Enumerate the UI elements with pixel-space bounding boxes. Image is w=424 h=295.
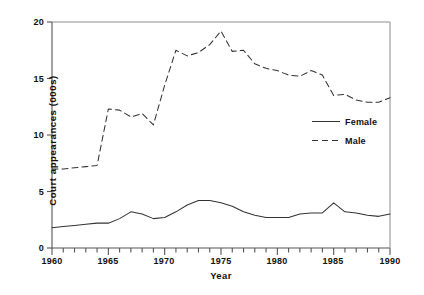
x-tick-label-1975: 1975 [201,256,241,266]
y-tick-label-15: 15 [20,74,44,84]
y-tick-label-0: 0 [20,243,44,253]
plot-area [0,0,424,295]
legend-label-male: Male [345,136,366,146]
y-tick-label-5: 5 [20,187,44,197]
x-tick-label-1970: 1970 [144,256,184,266]
axis-ticks [47,22,390,255]
x-tick-label-1990: 1990 [370,256,410,266]
y-axis-title: Court appearances (000s) [47,41,58,241]
legend-label-female: Female [345,117,377,127]
x-tick-label-1965: 1965 [88,256,128,266]
x-tick-label-1960: 1960 [32,256,72,266]
y-tick-label-10: 10 [20,130,44,140]
series-line-female [52,201,390,228]
x-tick-label-1985: 1985 [313,256,353,266]
y-tick-label-20: 20 [20,17,44,27]
x-tick-label-1980: 1980 [257,256,297,266]
series-line-male [52,31,390,169]
data-series [52,31,390,228]
x-axis-title: Year [52,270,390,281]
legend-swatches [312,122,340,141]
chart-figure: Court appearances (000s) Year 0 5 10 15 … [0,0,424,295]
